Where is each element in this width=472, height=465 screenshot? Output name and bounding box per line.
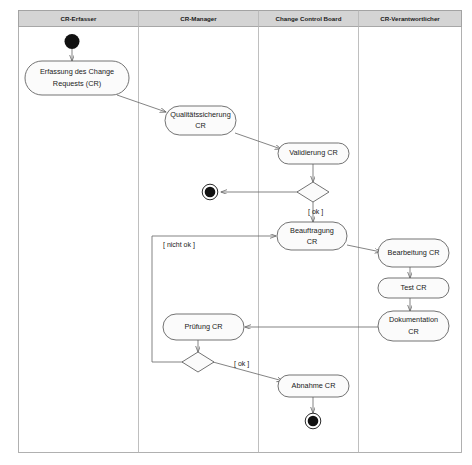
lane-header-cr-manager: CR-Manager bbox=[180, 15, 217, 22]
activity-label-qualitaetssicherung-line2: CR bbox=[195, 121, 206, 130]
activity-label-dokumentation-line2: CR bbox=[408, 327, 419, 336]
final-node-abgelehnt[interactable] bbox=[202, 184, 218, 200]
guard-label-pruefung-ok: [ ok ] bbox=[234, 360, 249, 368]
activity-label-beauftragung-line1: Beauftragung bbox=[290, 226, 334, 235]
activity-node-validierung[interactable]: Validierung CR bbox=[278, 143, 349, 164]
guard-label-validierung-ok: [ ok ] bbox=[308, 208, 323, 216]
initial-node[interactable] bbox=[65, 34, 80, 49]
lane-header-cr-verantwortlicher: CR-Verantwortlicher bbox=[380, 15, 440, 22]
flow-decision-to-beauftragung-loop bbox=[152, 236, 276, 362]
activity-label-erfassung-line2: Requests (CR) bbox=[53, 79, 101, 88]
decision-node-validierung[interactable] bbox=[297, 182, 329, 202]
activity-node-pruefung[interactable]: Prüfung CR bbox=[163, 314, 244, 340]
flow-qualitaetssicherung-to-validierung bbox=[235, 133, 281, 149]
activity-label-bearbeitung: Bearbeitung CR bbox=[388, 248, 440, 257]
flow-erfassung-to-qualitaetssicherung bbox=[117, 95, 166, 112]
activity-diagram-canvas: CR-Erfasser CR-Manager Change Control Bo… bbox=[0, 0, 472, 465]
final-node-abgenommen[interactable] bbox=[305, 413, 321, 429]
activity-label-beauftragung-line2: CR bbox=[307, 237, 318, 246]
activity-node-test[interactable]: Test CR bbox=[378, 278, 449, 298]
activity-label-abnahme: Abnahme CR bbox=[292, 381, 336, 390]
activity-node-abnahme[interactable]: Abnahme CR bbox=[278, 375, 349, 397]
activity-label-erfassung-line1: Erfassung des Change bbox=[40, 67, 114, 76]
guard-label-pruefung-nicht-ok: [ nicht ok ] bbox=[163, 241, 195, 249]
activity-node-bearbeitung[interactable]: Bearbeitung CR bbox=[378, 239, 449, 267]
activity-node-dokumentation[interactable]: Dokumentation CR bbox=[378, 311, 449, 341]
activity-node-erfassung[interactable]: Erfassung des Change Requests (CR) bbox=[25, 61, 129, 95]
activity-label-validierung: Validierung CR bbox=[289, 148, 338, 157]
activity-label-qualitaetssicherung-line1: Qualitätssicherung bbox=[170, 110, 230, 119]
activity-label-test: Test CR bbox=[401, 283, 427, 292]
control-flow-edges bbox=[72, 49, 410, 413]
activity-node-beauftragung[interactable]: Beauftragung CR bbox=[277, 222, 347, 250]
lane-header-change-control-board: Change Control Board bbox=[276, 15, 342, 22]
activity-label-pruefung: Prüfung CR bbox=[184, 322, 222, 331]
decision-node-pruefung[interactable] bbox=[182, 352, 214, 372]
activity-label-dokumentation-line1: Dokumentation bbox=[389, 315, 438, 324]
activity-node-qualitaetssicherung[interactable]: Qualitätssicherung CR bbox=[165, 106, 236, 135]
lane-header-cr-erfasser: CR-Erfasser bbox=[61, 15, 97, 22]
flow-beauftragung-to-bearbeitung bbox=[347, 245, 381, 252]
